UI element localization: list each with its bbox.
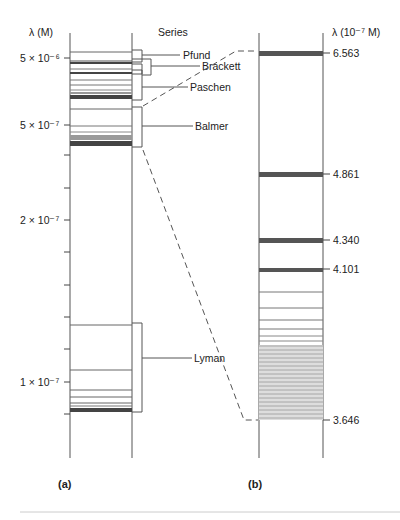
- value-ticks: [323, 53, 330, 420]
- panel-a: λ (M) Series 5 × 10⁻⁶ 5 × 10⁻⁷ 2 × 10⁻⁷ …: [20, 26, 241, 490]
- spectral-lines-a: [70, 52, 132, 412]
- panel-a-axis-label: λ (M): [29, 26, 53, 38]
- series-label-paschen: Paschen: [190, 81, 231, 93]
- panel-b-caption: (b): [248, 478, 262, 490]
- tick-label: 1 × 10⁻⁷: [20, 376, 59, 388]
- tick-label: 5 × 10⁻⁶: [20, 52, 60, 64]
- wavelength-label: 4.340: [333, 234, 359, 246]
- tick-label: 2 × 10⁻⁷: [20, 214, 59, 226]
- series-brackets: [132, 50, 200, 412]
- series-label-brackett: Brackett: [202, 60, 241, 72]
- spectral-lines-b: [259, 51, 323, 420]
- series-header: Series: [158, 26, 188, 38]
- wavelength-label: 6.563: [333, 47, 359, 59]
- zoom-connector: [143, 51, 258, 420]
- panel-b: λ (10⁻⁷ M): [248, 26, 380, 490]
- tick-label: 5 × 10⁻⁷: [20, 119, 59, 131]
- wavelength-label: 4.101: [333, 263, 359, 275]
- axis-ticks: [64, 58, 70, 414]
- spectral-series-figure: λ (M) Series 5 × 10⁻⁶ 5 × 10⁻⁷ 2 × 10⁻⁷ …: [0, 0, 400, 520]
- wavelength-label: 3.646: [333, 414, 359, 426]
- panel-b-axis-label: λ (10⁻⁷ M): [332, 26, 380, 38]
- wavelength-label: 4.861: [333, 168, 359, 180]
- panel-a-caption: (a): [58, 478, 72, 490]
- series-label-balmer: Balmer: [195, 120, 229, 132]
